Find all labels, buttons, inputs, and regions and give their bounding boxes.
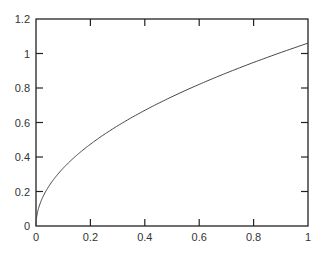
- y-tick-label: 0.2: [15, 186, 30, 198]
- plot-frame: [36, 19, 308, 226]
- y-tick-label: 0.8: [15, 82, 30, 94]
- axis-ticks: [36, 19, 308, 226]
- x-tick-label: 1: [305, 231, 311, 243]
- y-tick-label: 0: [24, 220, 30, 232]
- data-line: [36, 43, 308, 226]
- x-tick-label: 0: [33, 231, 39, 243]
- x-tick-labels: 00.20.40.60.81: [33, 231, 311, 243]
- y-tick-label: 0.6: [15, 117, 30, 129]
- y-tick-label: 1: [24, 48, 30, 60]
- y-tick-labels: 00.20.40.60.811.2: [15, 13, 30, 232]
- x-tick-label: 0.4: [137, 231, 152, 243]
- x-tick-label: 0.2: [83, 231, 98, 243]
- x-tick-label: 0.6: [192, 231, 207, 243]
- chart: 00.20.40.60.81 00.20.40.60.811.2: [0, 0, 328, 261]
- y-tick-label: 1.2: [15, 13, 30, 25]
- x-tick-label: 0.8: [246, 231, 261, 243]
- y-tick-label: 0.4: [15, 151, 30, 163]
